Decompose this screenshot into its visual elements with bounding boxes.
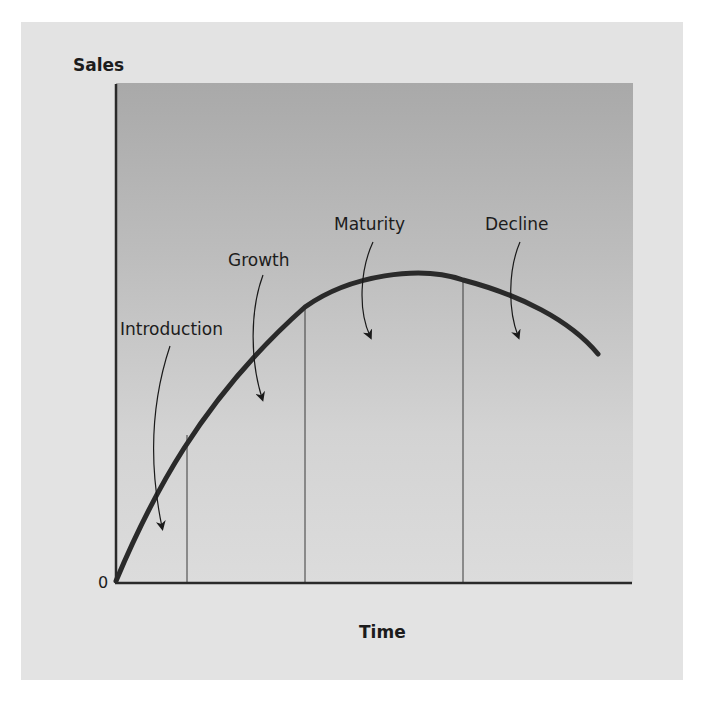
stage-label-introduction: Introduction: [120, 319, 223, 339]
stage-label-maturity: Maturity: [334, 214, 405, 234]
origin-label: 0: [98, 573, 108, 592]
maturity-arrow: [362, 242, 373, 336]
stage-label-decline: Decline: [485, 214, 549, 234]
x-axis-label: Time: [359, 622, 406, 642]
y-axis-label: Sales: [73, 55, 124, 75]
stage-label-growth: Growth: [228, 250, 290, 270]
growth-arrow: [253, 275, 263, 398]
decline-arrow: [511, 242, 520, 336]
life-cycle-chart: [0, 0, 701, 706]
